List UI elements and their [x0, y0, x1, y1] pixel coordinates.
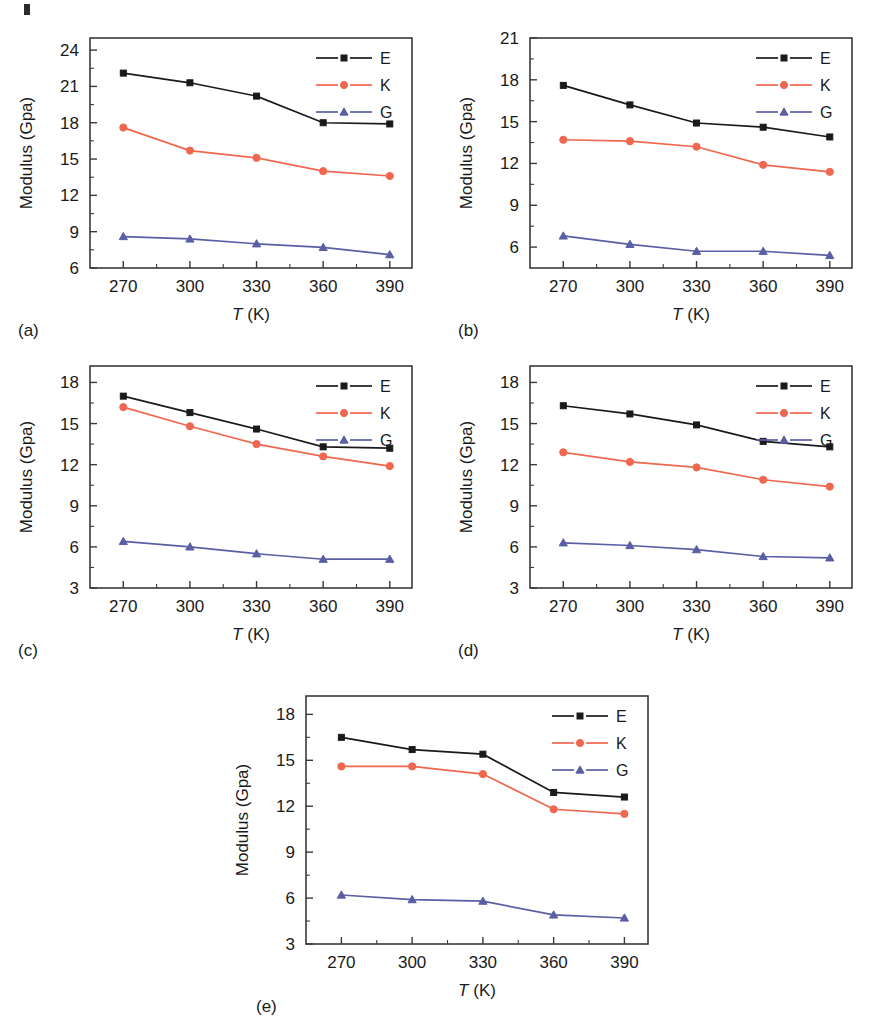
panel-label: (b): [458, 321, 479, 340]
data-point-marker-circle: [338, 763, 345, 770]
data-point-marker-square: [627, 102, 633, 108]
data-point-marker-triangle: [576, 766, 584, 773]
figure-root: 691215182124270300330360390Modulus (Gpa)…: [0, 0, 886, 1026]
x-axis-title: T (K): [672, 305, 710, 324]
data-point-marker-square: [760, 124, 766, 130]
data-point-marker-circle: [693, 143, 700, 150]
panel-label: (e): [256, 997, 277, 1016]
plot-frame: [530, 366, 852, 588]
y-axis-tick-label: 12: [500, 456, 519, 475]
data-point-marker-circle: [320, 168, 327, 175]
x-axis-tick-label: 360: [749, 277, 777, 296]
x-axis-tick-label: 360: [539, 953, 567, 972]
data-point-marker-circle: [550, 806, 557, 813]
chart-panel-e: 369121518270300330360390Modulus (Gpa)T (…: [216, 672, 666, 1020]
data-point-marker-circle: [780, 409, 787, 416]
x-axis-tick-label: 330: [242, 277, 270, 296]
data-point-marker-square: [560, 403, 566, 409]
legend-label-E: E: [380, 50, 391, 67]
chart-svg: 369121518270300330360390Modulus (Gpa)T (…: [0, 342, 430, 664]
data-point-marker-square: [577, 713, 583, 719]
y-axis-tick-label: 15: [276, 751, 295, 770]
legend: EKG: [756, 50, 832, 121]
x-axis-tick-label: 390: [376, 277, 404, 296]
data-point-marker-circle: [560, 136, 567, 143]
data-point-marker-circle: [386, 172, 393, 179]
data-point-marker-circle: [479, 770, 486, 777]
y-axis-tick-label: 3: [510, 579, 519, 598]
x-axis-tick-label: 270: [109, 277, 137, 296]
data-point-marker-circle: [621, 810, 628, 817]
x-axis-tick-label: 360: [749, 597, 777, 616]
y-axis-title: Modulus (Gpa): [457, 97, 476, 209]
x-axis-title: T (K): [458, 981, 496, 1000]
data-point-marker-square: [341, 383, 347, 389]
data-point-marker-triangle: [780, 436, 788, 443]
panel-label: (c): [18, 641, 38, 660]
data-point-marker-triangle: [780, 108, 788, 115]
data-point-marker-circle: [626, 458, 633, 465]
x-axis-tick-label: 300: [176, 597, 204, 616]
data-point-marker-square: [120, 393, 126, 399]
chart-svg: 369121518270300330360390Modulus (Gpa)T (…: [216, 672, 666, 1020]
chart-panel-b: 6912151821270300330360390Modulus (Gpa)T …: [440, 14, 870, 344]
data-point-marker-square: [781, 383, 787, 389]
chart-panel-d: 369121518270300330360390Modulus (Gpa)T (…: [440, 342, 870, 664]
data-point-marker-square: [320, 120, 326, 126]
y-axis-title: Modulus (Gpa): [17, 97, 36, 209]
data-point-marker-circle: [826, 168, 833, 175]
data-point-marker-square: [694, 422, 700, 428]
data-point-marker-circle: [340, 81, 347, 88]
x-axis-tick-label: 330: [242, 597, 270, 616]
data-point-marker-circle: [760, 161, 767, 168]
y-axis-tick-label: 18: [500, 373, 519, 392]
x-axis-tick-label: 330: [469, 953, 497, 972]
x-axis-tick-label: 270: [109, 597, 137, 616]
y-axis-tick-label: 6: [510, 538, 519, 557]
x-axis-tick-label: 330: [682, 277, 710, 296]
data-point-marker-square: [341, 55, 347, 61]
data-point-marker-circle: [386, 462, 393, 469]
data-point-marker-square: [409, 747, 415, 753]
series-markers-K: [560, 136, 834, 175]
y-axis-tick-label: 9: [70, 497, 79, 516]
y-axis-tick-label: 15: [60, 150, 79, 169]
data-point-marker-circle: [253, 154, 260, 161]
data-point-marker-square: [254, 93, 260, 99]
legend-label-K: K: [380, 77, 391, 94]
y-axis-tick-label: 9: [286, 843, 295, 862]
series-line-K: [123, 128, 389, 176]
legend-label-E: E: [820, 50, 831, 67]
y-axis-tick-label: 3: [286, 935, 295, 954]
x-axis-tick-label: 330: [682, 597, 710, 616]
plot-frame: [306, 696, 648, 944]
legend-label-G: G: [380, 432, 392, 449]
data-point-marker-circle: [780, 81, 787, 88]
data-point-marker-circle: [576, 739, 583, 746]
x-axis-tick-label: 300: [616, 277, 644, 296]
x-axis-tick-label: 390: [816, 277, 844, 296]
y-axis-tick-label: 12: [60, 456, 79, 475]
series-markers-G: [119, 232, 394, 257]
y-axis-tick-label: 15: [60, 415, 79, 434]
data-point-marker-square: [120, 70, 126, 76]
data-point-marker-circle: [826, 483, 833, 490]
data-point-marker-circle: [120, 124, 127, 131]
data-point-marker-circle: [340, 409, 347, 416]
data-point-marker-circle: [560, 449, 567, 456]
y-axis-tick-label: 9: [510, 497, 519, 516]
legend-label-E: E: [616, 708, 627, 725]
legend: EKG: [552, 708, 628, 779]
y-axis-tick-label: 9: [70, 223, 79, 242]
x-axis-tick-label: 270: [549, 277, 577, 296]
y-axis-title: Modulus (Gpa): [233, 764, 252, 876]
data-point-marker-square: [187, 410, 193, 416]
legend: EKG: [316, 50, 392, 121]
data-point-marker-circle: [409, 763, 416, 770]
data-point-marker-circle: [186, 147, 193, 154]
data-point-marker-square: [254, 426, 260, 432]
legend-label-G: G: [820, 104, 832, 121]
y-axis-tick-label: 18: [276, 705, 295, 724]
data-point-marker-circle: [186, 423, 193, 430]
data-point-marker-circle: [693, 464, 700, 471]
